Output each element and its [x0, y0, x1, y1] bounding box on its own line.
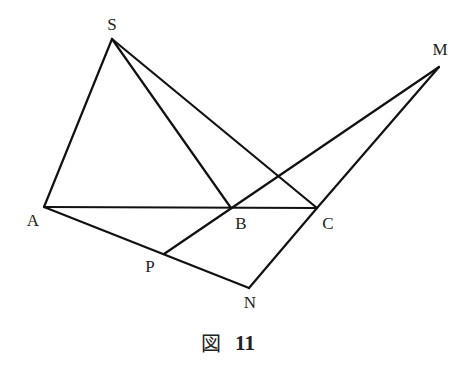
figure-caption: 図 11: [201, 331, 255, 356]
label-N: N: [244, 293, 256, 312]
caption-number: 11: [235, 331, 255, 355]
segments: [44, 39, 439, 288]
geometry-figure: S A B C M P N 図 11: [0, 0, 470, 378]
caption-prefix: 図: [201, 332, 221, 356]
label-S: S: [107, 15, 116, 34]
label-M: M: [432, 40, 447, 59]
vertex-labels: S A B C M P N: [27, 15, 448, 312]
label-P: P: [145, 257, 154, 276]
segment-AC: [44, 207, 317, 208]
label-C: C: [322, 214, 333, 233]
label-A: A: [27, 211, 40, 230]
label-B: B: [235, 214, 246, 233]
segment-SA: [44, 39, 112, 207]
segment-CN: [249, 208, 317, 288]
segment-SC: [112, 39, 317, 208]
